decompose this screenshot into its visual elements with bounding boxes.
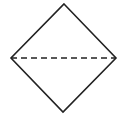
diagram-canvas <box>0 0 119 115</box>
diamond-diagram <box>0 0 119 115</box>
